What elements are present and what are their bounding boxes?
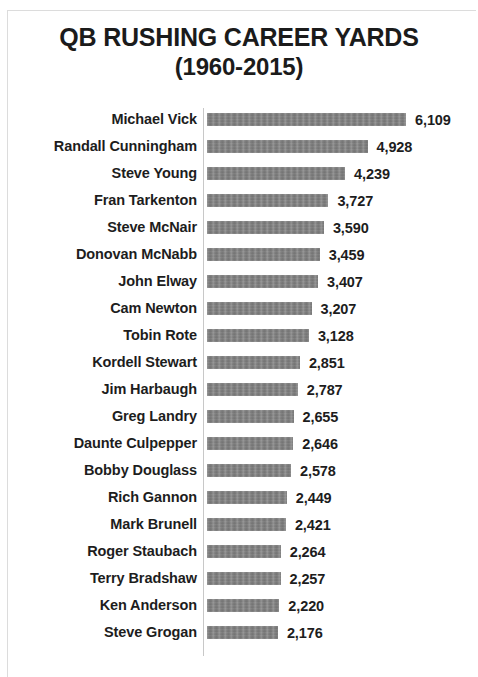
bar-value-label: 2,851: [309, 355, 345, 371]
bar-and-value: 3,590: [207, 214, 369, 241]
bar-row: Kordell Stewart2,851: [0, 349, 478, 376]
bar-category-label: Mark Brunell: [0, 511, 197, 538]
bar-category-label: Jim Harbaugh: [0, 376, 197, 403]
bar-row: Jim Harbaugh2,787: [0, 376, 478, 403]
bar: [207, 383, 298, 396]
bar: [207, 329, 309, 342]
bar-and-value: 3,407: [207, 268, 363, 295]
bar-row: Roger Staubach2,264: [0, 538, 478, 565]
bar-value-label: 3,207: [321, 301, 357, 317]
bar: [207, 194, 328, 207]
bar-category-label: Steve McNair: [0, 214, 197, 241]
bar-category-label: Daunte Culpepper: [0, 430, 197, 457]
bar-row: Steve Young4,239: [0, 160, 478, 187]
bar: [207, 464, 291, 477]
bar: [207, 140, 368, 153]
bar: [207, 626, 278, 639]
bar-value-label: 2,220: [288, 598, 324, 614]
bar-category-label: Cam Newton: [0, 295, 197, 322]
bar-row: Donovan McNabb3,459: [0, 241, 478, 268]
bar-and-value: 3,459: [207, 241, 364, 268]
bar-value-label: 2,421: [295, 517, 331, 533]
bar-and-value: 2,220: [207, 592, 324, 619]
bar: [207, 167, 345, 180]
bar-value-label: 3,128: [318, 328, 354, 344]
plot-area: Michael Vick6,109Randall Cunningham4,928…: [0, 106, 478, 666]
bar-category-label: Tobin Rote: [0, 322, 197, 349]
bar-and-value: 2,264: [207, 538, 325, 565]
bar-value-label: 3,407: [327, 274, 363, 290]
bar-value-label: 2,578: [300, 463, 336, 479]
bar-and-value: 2,257: [207, 565, 325, 592]
bar-value-label: 3,459: [329, 247, 365, 263]
bar-category-label: Greg Landry: [0, 403, 197, 430]
bar-value-label: 2,449: [296, 490, 332, 506]
bar: [207, 113, 406, 126]
bar: [207, 437, 293, 450]
bar-category-label: Randall Cunningham: [0, 133, 197, 160]
bar-category-label: Steve Grogan: [0, 619, 197, 646]
bar: [207, 356, 300, 369]
bar-and-value: 2,787: [207, 376, 343, 403]
bar-row: Ken Anderson2,220: [0, 592, 478, 619]
bar-and-value: 2,851: [207, 349, 345, 376]
bar-and-value: 3,207: [207, 295, 356, 322]
bar: [207, 410, 294, 423]
bar-category-label: Rich Gannon: [0, 484, 197, 511]
bar-category-label: Kordell Stewart: [0, 349, 197, 376]
bar-value-label: 2,655: [303, 409, 339, 425]
bar-row: Tobin Rote3,128: [0, 322, 478, 349]
chart-title-line-2: (1960-2015): [8, 52, 470, 82]
bar-value-label: 2,646: [302, 436, 338, 452]
bar-category-label: Terry Bradshaw: [0, 565, 197, 592]
bar: [207, 599, 279, 612]
bar-value-label: 2,787: [307, 382, 343, 398]
bar-row: Bobby Douglass2,578: [0, 457, 478, 484]
bar-category-label: Ken Anderson: [0, 592, 197, 619]
bar-row: Mark Brunell2,421: [0, 511, 478, 538]
bar: [207, 545, 281, 558]
bar-row: John Elway3,407: [0, 268, 478, 295]
bar-and-value: 3,727: [207, 187, 373, 214]
bar-category-label: Michael Vick: [0, 106, 197, 133]
bar-row: Greg Landry2,655: [0, 403, 478, 430]
bar-rows: Michael Vick6,109Randall Cunningham4,928…: [0, 106, 478, 646]
chart-title: QB RUSHING CAREER YARDS (1960-2015): [8, 22, 470, 82]
bar-category-label: Donovan McNabb: [0, 241, 197, 268]
bar-row: Steve Grogan2,176: [0, 619, 478, 646]
bar-row: Michael Vick6,109: [0, 106, 478, 133]
bar-category-label: Steve Young: [0, 160, 197, 187]
qb-rushing-career-yards-chart: QB RUSHING CAREER YARDS (1960-2015) Mich…: [0, 0, 478, 677]
bar-and-value: 2,578: [207, 457, 336, 484]
bar-value-label: 3,727: [337, 193, 373, 209]
bar: [207, 572, 281, 585]
bar-value-label: 2,257: [290, 571, 326, 587]
bar-and-value: 2,176: [207, 619, 323, 646]
bar: [207, 302, 312, 315]
bar-value-label: 2,176: [287, 625, 323, 641]
bar: [207, 518, 286, 531]
bar-category-label: Roger Staubach: [0, 538, 197, 565]
bar-and-value: 2,655: [207, 403, 338, 430]
bar-category-label: Bobby Douglass: [0, 457, 197, 484]
bar-and-value: 6,109: [207, 106, 451, 133]
bar-value-label: 6,109: [415, 112, 451, 128]
bar-and-value: 2,449: [207, 484, 332, 511]
bar-and-value: 2,646: [207, 430, 338, 457]
bar-value-label: 3,590: [333, 220, 369, 236]
chart-title-line-1: QB RUSHING CAREER YARDS: [59, 23, 418, 51]
bar-row: Randall Cunningham4,928: [0, 133, 478, 160]
bar-row: Fran Tarkenton3,727: [0, 187, 478, 214]
bar: [207, 491, 287, 504]
bar-category-label: John Elway: [0, 268, 197, 295]
bar-and-value: 4,928: [207, 133, 412, 160]
bar-and-value: 2,421: [207, 511, 331, 538]
bar-and-value: 3,128: [207, 322, 354, 349]
bar: [207, 275, 318, 288]
bar-row: Daunte Culpepper2,646: [0, 430, 478, 457]
bar-row: Terry Bradshaw2,257: [0, 565, 478, 592]
bar-row: Cam Newton3,207: [0, 295, 478, 322]
bar-value-label: 4,928: [377, 139, 413, 155]
bar-row: Rich Gannon2,449: [0, 484, 478, 511]
bar-category-label: Fran Tarkenton: [0, 187, 197, 214]
